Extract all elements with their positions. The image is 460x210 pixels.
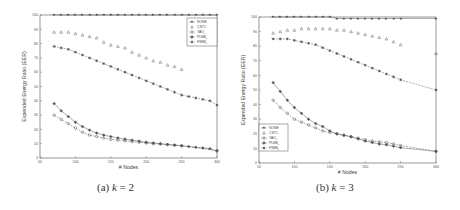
svg-text:★: ★ — [109, 13, 113, 17]
circle-marker-icon — [53, 114, 56, 117]
svg-text:★: ★ — [116, 13, 120, 17]
svg-text:★: ★ — [123, 13, 127, 17]
star-marker-icon: ★ — [144, 13, 148, 17]
y-tick-label: 70 — [34, 56, 38, 60]
star-marker-icon: ★ — [208, 13, 212, 17]
triangle-marker-icon — [138, 54, 141, 57]
y-tick-label: 0 — [255, 161, 257, 165]
diamond-marker-icon — [392, 145, 395, 148]
svg-text:★: ★ — [370, 17, 374, 21]
series-fsbb-k — [272, 38, 438, 92]
triangle-marker-icon — [95, 36, 98, 39]
y-tick-label: 10 — [253, 147, 257, 151]
diamond-marker-icon — [88, 129, 91, 132]
asterisk-marker-icon — [81, 54, 84, 57]
star-marker-icon: ★ — [123, 13, 127, 17]
star-marker-icon: ★ — [88, 13, 92, 17]
circle-marker-icon — [307, 124, 310, 127]
diamond-marker-icon — [102, 134, 105, 137]
series-none: ★★★★★★★★★★★★★★★★★★★★ — [271, 15, 438, 20]
svg-text:★: ★ — [262, 126, 266, 130]
y-axis-label: Expended Energy Ratio (EER) — [240, 55, 246, 126]
star-marker-icon: ★ — [278, 15, 282, 19]
star-marker-icon: ★ — [158, 13, 162, 17]
asterisk-marker-icon — [138, 77, 141, 80]
triangle-marker-icon — [173, 65, 176, 68]
star-marker-icon: ★ — [335, 17, 339, 21]
triangle-marker-icon — [307, 27, 310, 30]
star-marker-icon: ★ — [95, 13, 99, 17]
star-marker-icon: ★ — [102, 13, 106, 17]
triangle-marker-icon — [385, 38, 388, 41]
svg-text:★: ★ — [399, 17, 403, 21]
svg-text:★: ★ — [335, 17, 339, 21]
svg-text:★: ★ — [356, 17, 360, 21]
triangle-marker-icon — [321, 27, 324, 30]
star-marker-icon: ★ — [356, 17, 360, 21]
star-marker-icon: ★ — [285, 15, 289, 19]
star-marker-icon: ★ — [130, 13, 134, 17]
star-marker-icon: ★ — [399, 17, 403, 21]
legend-label: NONE — [197, 20, 208, 24]
asterisk-marker-icon — [335, 52, 338, 55]
svg-text:★: ★ — [307, 15, 311, 19]
x-tick-label: 150 — [327, 165, 333, 169]
triangle-marker-icon — [335, 29, 338, 32]
triangle-marker-icon — [88, 35, 91, 38]
asterisk-marker-icon — [152, 82, 155, 85]
asterisk-marker-icon — [201, 98, 204, 101]
triangle-marker-icon — [279, 30, 282, 33]
diamond-marker-icon — [399, 146, 402, 149]
caption-var: k — [332, 181, 337, 193]
svg-text:★: ★ — [165, 13, 169, 17]
diamond-marker-icon — [321, 125, 324, 128]
svg-text:★: ★ — [215, 13, 219, 17]
svg-text:★: ★ — [158, 13, 162, 17]
circle-marker-icon — [293, 118, 296, 121]
y-tick-label: 20 — [253, 132, 257, 136]
asterisk-marker-icon — [385, 73, 388, 76]
star-marker-icon: ★ — [215, 13, 219, 17]
triangle-marker-icon — [74, 32, 77, 35]
star-marker-icon: ★ — [328, 15, 332, 19]
svg-text:★: ★ — [80, 13, 84, 17]
legend: ★NONECSTCYAOkPLBBkFSBBk — [259, 124, 288, 151]
caption-eq: = 3 — [339, 181, 353, 193]
asterisk-marker-icon — [321, 46, 324, 49]
svg-text:★: ★ — [363, 17, 367, 21]
diamond-marker-icon — [95, 132, 98, 135]
star-marker-icon: ★ — [151, 13, 155, 17]
caption-prefix: (b) — [316, 181, 329, 193]
svg-text:★: ★ — [190, 20, 194, 24]
chart-panel-k2: 501001502002503000102030405060708090100#… — [0, 0, 230, 180]
asterisk-marker-icon — [272, 38, 275, 41]
y-tick-label: 90 — [253, 30, 257, 34]
y-tick-label: 40 — [253, 103, 257, 107]
triangle-marker-icon — [293, 29, 296, 32]
star-marker-icon: ★ — [292, 15, 296, 19]
svg-text:★: ★ — [95, 13, 99, 17]
svg-text:★: ★ — [201, 13, 205, 17]
asterisk-marker-icon — [173, 91, 176, 94]
svg-text:★: ★ — [384, 17, 388, 21]
asterisk-marker-icon — [166, 88, 169, 91]
triangle-marker-icon — [371, 35, 374, 38]
triangle-marker-icon — [145, 57, 148, 60]
star-marker-icon: ★ — [66, 13, 70, 17]
x-tick-label: 200 — [143, 160, 149, 164]
caption-var: k — [112, 181, 117, 193]
asterisk-marker-icon — [300, 40, 303, 43]
star-marker-icon: ★ — [194, 13, 198, 17]
svg-text:★: ★ — [285, 15, 289, 19]
triangle-marker-icon — [343, 29, 346, 32]
asterisk-marker-icon — [263, 147, 266, 150]
legend: ★NONECSTCYAOkPLBBkFSBBk — [187, 18, 217, 46]
star-marker-icon: ★ — [80, 13, 84, 17]
triangle-marker-icon — [314, 27, 317, 30]
svg-text:★: ★ — [342, 17, 346, 21]
star-marker-icon: ★ — [384, 17, 388, 21]
circle-marker-icon — [74, 127, 77, 130]
asterisk-marker-icon — [314, 43, 317, 46]
svg-text:★: ★ — [194, 13, 198, 17]
triangle-marker-icon — [286, 29, 289, 32]
